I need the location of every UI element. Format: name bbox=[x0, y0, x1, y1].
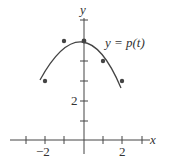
x-axis-label: x bbox=[149, 132, 156, 147]
y-tick-label-2: 2 bbox=[71, 93, 78, 108]
y-axis bbox=[80, 18, 88, 154]
x-tick-label-neg2: −2 bbox=[36, 144, 50, 159]
curve-label: y = p(t) bbox=[103, 35, 145, 50]
x-tick-label-2: 2 bbox=[119, 144, 126, 159]
y-axis-label: y bbox=[78, 2, 86, 17]
x-axis bbox=[10, 136, 150, 144]
chart: y x y = p(t) −2 2 2 bbox=[0, 0, 171, 164]
